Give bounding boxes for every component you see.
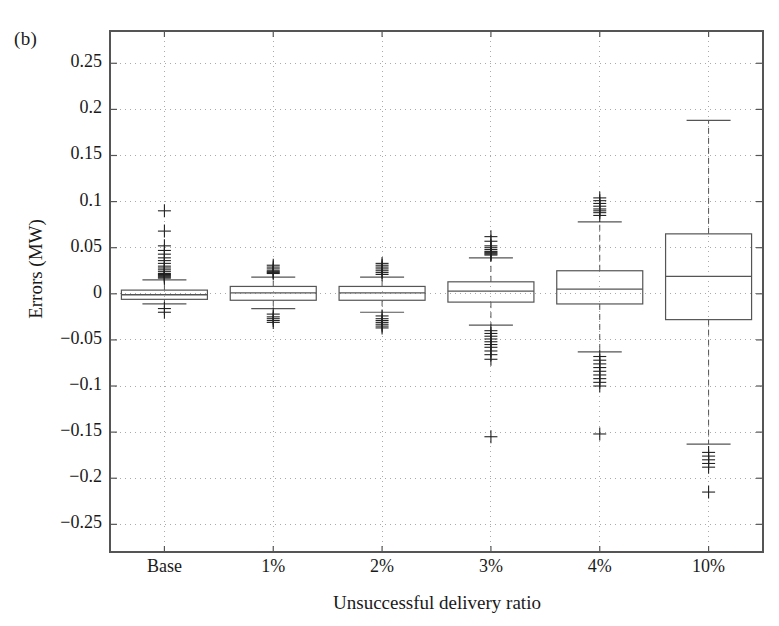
boxplot-group-10% — [666, 120, 752, 498]
boxplot-group-4% — [557, 191, 643, 440]
boxplot-group-1% — [230, 259, 316, 329]
boxplot-group-2% — [339, 257, 425, 335]
boxplot-figure: (b) Errors (MW) Unsuccessful delivery ra… — [0, 0, 779, 626]
boxplot-canvas — [0, 0, 779, 626]
